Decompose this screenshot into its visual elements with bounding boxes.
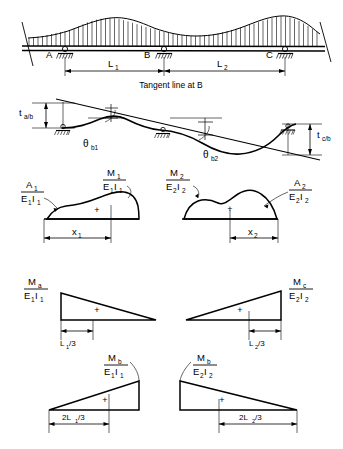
svg-text:E: E xyxy=(104,366,110,377)
svg-text:E: E xyxy=(289,191,295,202)
dimension-l2-third xyxy=(249,311,281,340)
svg-text:I: I xyxy=(177,181,180,192)
svg-text:E: E xyxy=(24,290,30,301)
svg-text:b2: b2 xyxy=(211,155,219,162)
angle-label-theta-b1: θ b1 xyxy=(83,138,99,151)
svg-text:A: A xyxy=(26,179,33,190)
svg-text:I: I xyxy=(115,366,118,377)
distributed-load-hatching xyxy=(29,16,317,46)
svg-text:/3: /3 xyxy=(69,339,76,348)
svg-text:2: 2 xyxy=(209,372,213,379)
triangle-mb-left xyxy=(49,381,139,410)
svg-text:M: M xyxy=(28,276,36,287)
svg-text:2: 2 xyxy=(254,232,258,239)
svg-text:1: 1 xyxy=(117,173,121,180)
svg-text:2: 2 xyxy=(305,197,309,204)
svg-text:t: t xyxy=(317,129,320,140)
svg-text:x: x xyxy=(72,226,77,237)
svg-text:c/b: c/b xyxy=(322,135,331,142)
svg-text:b1: b1 xyxy=(91,144,99,151)
dimension-l1-third xyxy=(61,320,93,340)
dimension-label-x1: x 1 xyxy=(72,226,82,239)
svg-text:t: t xyxy=(19,107,22,118)
label-moment-m2: M 2 E 2 I 2 xyxy=(166,167,199,198)
triangle-mc xyxy=(186,291,281,320)
dimension-label-2l2-third: 2L 2 /3 xyxy=(239,413,262,424)
deviation-label-ta-b: t a/b xyxy=(19,107,33,120)
svg-text:c: c xyxy=(303,282,307,289)
angle-marker-theta-b2 xyxy=(198,118,213,140)
beam-member-top xyxy=(22,46,325,47)
svg-text:θ: θ xyxy=(83,138,89,149)
svg-text:M: M xyxy=(108,352,116,363)
svg-text:1: 1 xyxy=(115,64,119,71)
svg-text:1: 1 xyxy=(120,372,124,379)
svg-text:I: I xyxy=(300,191,303,202)
svg-text:b: b xyxy=(118,358,122,365)
svg-text:a/b: a/b xyxy=(24,113,33,120)
svg-text:/3: /3 xyxy=(78,413,85,422)
deviation-ta-b xyxy=(32,102,75,128)
svg-text:b: b xyxy=(207,358,211,365)
support-c xyxy=(277,46,294,58)
dimension-label-l1-third: L 1 /3 xyxy=(60,339,76,350)
label-area-a1: A 1 E 1 I 1 xyxy=(21,179,58,212)
svg-text:M: M xyxy=(170,167,178,178)
sign-left: + xyxy=(94,205,99,215)
svg-text:x: x xyxy=(248,226,253,237)
deflected-support-a xyxy=(55,124,71,135)
dimension-label-l2: L 2 xyxy=(217,58,228,71)
svg-text:I: I xyxy=(204,366,207,377)
label-moment-m1: M 1 E 1 I 1 xyxy=(103,167,131,198)
svg-text:1: 1 xyxy=(40,296,44,303)
svg-text:M: M xyxy=(293,276,301,287)
tangent-line-caption: Tangent line at B xyxy=(139,80,203,90)
label-mb-left: M b E 1 I 1 xyxy=(104,352,139,381)
svg-text:2L: 2L xyxy=(239,413,248,422)
support-b xyxy=(156,46,173,58)
svg-text:A: A xyxy=(294,177,301,188)
dimension-label-l1: L 1 xyxy=(108,58,119,71)
svg-text:I: I xyxy=(114,181,117,192)
support-label-c: C xyxy=(266,49,273,60)
angle-label-theta-b2: θ b2 xyxy=(203,149,219,162)
svg-text:M: M xyxy=(197,352,205,363)
sign-ma: + xyxy=(94,305,99,315)
label-ma: M a E 1 I 1 xyxy=(24,276,48,303)
svg-text:2: 2 xyxy=(182,187,186,194)
sign-mb-left: + xyxy=(102,395,107,405)
mei-area-left xyxy=(47,192,139,219)
svg-text:1: 1 xyxy=(37,199,41,206)
svg-text:/3: /3 xyxy=(255,413,262,422)
svg-text:I: I xyxy=(300,290,303,301)
svg-text:L: L xyxy=(249,339,254,348)
svg-text:1: 1 xyxy=(119,187,123,194)
panel-real-moment-diagrams: + A 1 E 1 I 1 M 1 E 1 I 1 xyxy=(21,167,312,243)
panel-loaded-beam: A B xyxy=(22,16,331,76)
svg-text:E: E xyxy=(21,193,27,204)
svg-text:I: I xyxy=(32,193,35,204)
beam-left-end-stub xyxy=(22,22,33,66)
support-a xyxy=(57,46,74,58)
deviation-label-tc-b: t c/b xyxy=(317,129,331,142)
dimension-label-x2: x 2 xyxy=(248,226,258,239)
panel-end-moment-diagrams: + M a E 1 I 1 L 1 /3 + M c xyxy=(24,276,313,350)
label-mc: M c E 2 I 2 xyxy=(289,276,313,303)
svg-text:I: I xyxy=(35,290,38,301)
dimension-label-2l1-third: 2L 1 /3 xyxy=(62,413,85,424)
svg-text:2: 2 xyxy=(224,64,228,71)
svg-text:2: 2 xyxy=(180,173,184,180)
svg-text:L: L xyxy=(108,58,113,69)
sign-mc: + xyxy=(237,305,242,315)
svg-text:1: 1 xyxy=(34,185,38,192)
svg-text:2: 2 xyxy=(305,296,309,303)
svg-text:a: a xyxy=(38,282,42,289)
panel-mb-moment-diagrams: + M b E 1 I 1 2L 1 /3 + M b xyxy=(49,352,297,433)
svg-text:1: 1 xyxy=(78,232,82,239)
svg-text:E: E xyxy=(193,366,199,377)
support-label-b: B xyxy=(144,49,150,60)
svg-text:E: E xyxy=(166,181,172,192)
dimension-label-l2-third: L 2 /3 xyxy=(249,339,265,350)
sign-mb-right: + xyxy=(219,395,224,405)
engineering-figure: A B xyxy=(0,0,343,449)
